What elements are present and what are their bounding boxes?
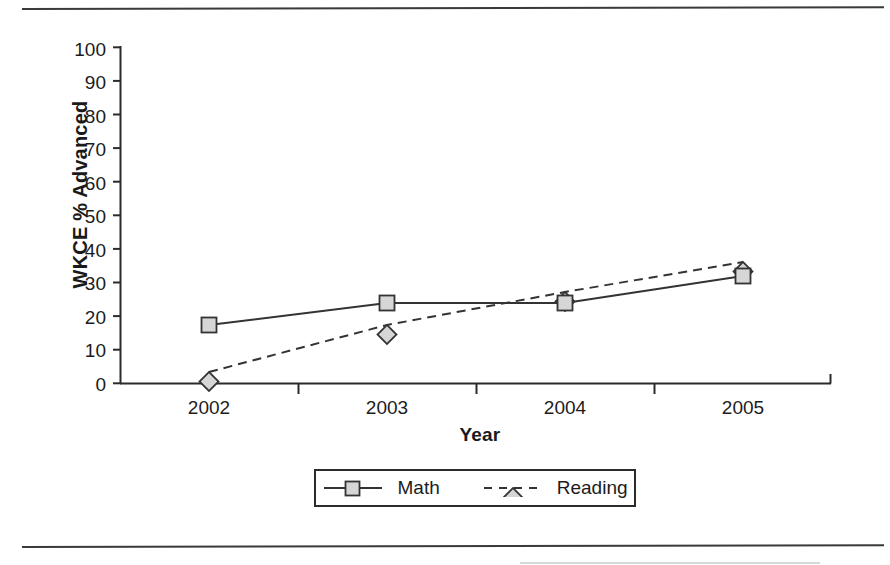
series-reading-line: [209, 262, 743, 372]
legend-label-reading: Reading: [557, 477, 628, 499]
chart-legend: Math Reading: [314, 469, 636, 507]
series-math-markers: [202, 269, 751, 333]
x-tick-label-2004: 2004: [475, 398, 655, 417]
plot-area: [0, 0, 890, 440]
legend-key-dashed-diamond: [482, 479, 544, 497]
legend-label-math: Math: [397, 477, 439, 499]
series-math: [202, 269, 751, 333]
series-math-line: [209, 276, 743, 325]
x-tick-marks: [299, 383, 655, 394]
line-chart: WKCE % Advanced 100 90 80 70 60 50 40 30…: [0, 0, 890, 540]
page-caption-edge-artifact: [520, 562, 820, 564]
series-reading: [200, 262, 753, 391]
data-point-math-2002: [202, 318, 217, 333]
legend-entry-math: Math: [322, 477, 439, 499]
data-point-math-2004: [558, 296, 573, 311]
scanned-page: WKCE % Advanced 100 90 80 70 60 50 40 30…: [0, 0, 890, 565]
data-point-reading-2002: [200, 372, 219, 391]
x-tick-label-2003: 2003: [297, 398, 477, 417]
x-tick-label-2005: 2005: [653, 398, 833, 417]
data-point-math-2003: [380, 296, 395, 311]
x-axis-title: Year: [130, 424, 830, 446]
data-point-reading-2003: [378, 325, 397, 344]
page-rule-bottom: [22, 544, 884, 548]
data-point-math-2005: [736, 269, 751, 284]
legend-key-math-solid-square: [322, 479, 384, 497]
legend-entry-reading: Reading: [482, 477, 628, 499]
series-reading-markers: [200, 262, 753, 391]
x-tick-label-2002: 2002: [119, 398, 299, 417]
